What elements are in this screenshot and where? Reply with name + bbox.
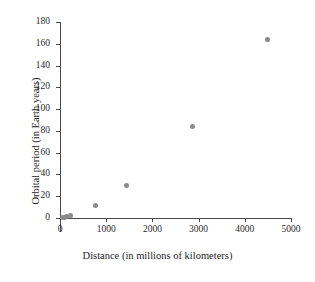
data-point — [93, 203, 98, 208]
plot-area: 020406080100120140160180 010002000300040… — [60, 22, 292, 232]
scatter-chart-figure: 020406080100120140160180 010002000300040… — [0, 0, 315, 282]
y-axis-title: Orbital period (in Earth years) — [26, 0, 46, 282]
x-tick-mark — [152, 218, 153, 222]
y-tick-mark — [56, 44, 60, 45]
x-tick-mark — [245, 218, 246, 222]
y-tick-mark — [56, 22, 60, 23]
data-point — [124, 183, 129, 188]
x-tick-label: 3000 — [189, 225, 208, 235]
y-axis-line — [60, 22, 61, 232]
y-tick-mark — [56, 109, 60, 110]
x-tick-mark — [291, 218, 292, 222]
x-tick-mark — [199, 218, 200, 222]
data-point — [265, 37, 270, 42]
y-tick-mark — [56, 174, 60, 175]
x-tick-label: 0 — [58, 225, 63, 235]
y-tick-mark — [56, 131, 60, 132]
x-tick-mark — [106, 218, 107, 222]
y-tick-mark — [56, 66, 60, 67]
x-axis-title: Distance (in millions of kilometers) — [0, 250, 315, 261]
y-tick-mark — [56, 153, 60, 154]
x-tick-label: 4000 — [235, 225, 254, 235]
x-axis-line — [60, 218, 291, 219]
y-tick-mark — [56, 87, 60, 88]
x-tick-label: 1000 — [97, 225, 116, 235]
data-point — [190, 124, 195, 129]
x-tick-label: 5000 — [282, 225, 301, 235]
y-tick-mark — [56, 196, 60, 197]
x-tick-label: 2000 — [143, 225, 162, 235]
